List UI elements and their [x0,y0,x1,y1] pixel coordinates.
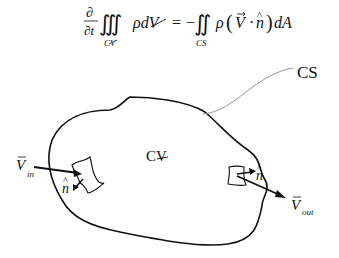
outlet-normal-arrowhead [249,168,256,175]
rhs-velocity: V [235,14,247,31]
outlet-velocity-arrowhead [275,190,286,198]
cs-leader-line [203,68,293,114]
outlet-velocity-label: V [291,197,302,213]
partial-denominator: ∂t [84,23,94,38]
double-integral-symbol: ∬ [194,11,211,36]
right-paren: ) [266,11,273,34]
cs-subscript: CS [196,38,207,48]
inlet-velocity-label: V [16,157,27,173]
control-surface-label: CS [297,63,318,82]
control-surface-boundary [49,97,267,245]
control-volume-label: CV [146,148,167,164]
lhs-integrand: ρdV [132,14,161,32]
inlet-velocity-subscript: in [27,169,35,179]
inlet-velocity-arrow [34,167,78,173]
normal-hat: ^ [257,9,263,21]
control-volume-diagram: ∂ ∂t ∭ CV ρdV = − ∬ CS ρ ( V · n ^ ) dA … [0,0,339,258]
partial-numerator: ∂ [86,5,93,20]
inlet-normal-hat: ^ [63,175,68,186]
conservation-of-mass-equation: ∂ ∂t ∭ CV ρdV = − ∬ CS ρ ( V · n ^ ) dA [84,5,292,48]
equals-sign: = [172,14,181,31]
outlet-normal-hat: ^ [257,162,262,173]
rhs-dA: dA [274,14,292,31]
outlet-surface-patch [228,166,246,185]
left-paren: ( [226,11,233,34]
rhs-rho: ρ [215,14,224,32]
outlet-velocity-subscript: out [302,207,314,217]
dot-operator: · [249,14,254,31]
triple-integral-symbol: ∭ [99,11,122,36]
